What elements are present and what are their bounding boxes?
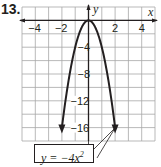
y-axis-label: y bbox=[92, 2, 99, 16]
x-axis-label: x bbox=[147, 5, 154, 19]
svg-text:4: 4 bbox=[139, 22, 145, 34]
equation-label: y = −4x2 bbox=[34, 144, 94, 163]
equation-exponent: 2 bbox=[80, 150, 84, 159]
svg-text:−4: −4 bbox=[28, 22, 41, 34]
svg-text:2: 2 bbox=[112, 22, 118, 34]
svg-text:−2: −2 bbox=[55, 22, 68, 34]
graph: −4−224−4−8−12−16 y x bbox=[0, 0, 161, 167]
svg-text:−8: −8 bbox=[78, 68, 91, 80]
svg-text:−12: −12 bbox=[71, 95, 90, 107]
tick-labels: −4−224−4−8−12−16 bbox=[28, 22, 145, 133]
svg-text:−16: −16 bbox=[71, 122, 90, 134]
svg-text:−4: −4 bbox=[78, 41, 91, 53]
equation-text: y = −4x bbox=[41, 151, 80, 165]
